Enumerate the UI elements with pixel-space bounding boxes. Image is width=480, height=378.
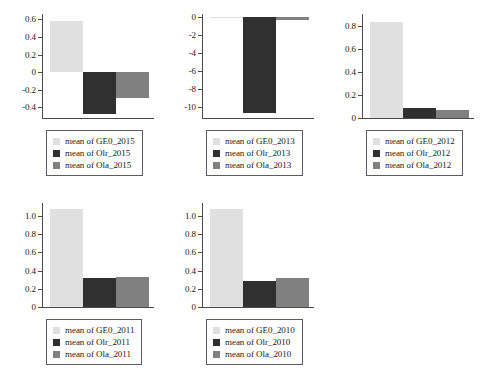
y-axis-tick bbox=[38, 216, 42, 217]
y-axis-tick-label: 0.4 bbox=[185, 266, 196, 275]
legend-swatch-icon bbox=[53, 327, 60, 334]
legend-item[interactable]: mean of GE0_2013 bbox=[213, 135, 295, 147]
y-axis-tick-label: -8 bbox=[189, 85, 196, 94]
y-axis-tick-label: 0.8 bbox=[25, 230, 36, 239]
y-axis-tick bbox=[358, 49, 362, 50]
plot-area: 1.00.80.60.40.20 bbox=[202, 203, 310, 307]
bar bbox=[276, 17, 309, 20]
y-axis-tick bbox=[198, 35, 202, 36]
legend-item[interactable]: mean of GE0_2015 bbox=[53, 135, 135, 147]
legend-item[interactable]: mean of Ola_2012 bbox=[373, 159, 455, 171]
bar-group bbox=[43, 203, 150, 307]
legend-item[interactable]: mean of Ola_2010 bbox=[213, 348, 295, 360]
chart-panel-3: 0.80.60.40.20mean of GE0_2012mean of Olr… bbox=[320, 0, 480, 189]
y-axis-tick-label: -2 bbox=[189, 31, 196, 40]
y-axis-tick-label: 0.6 bbox=[25, 15, 36, 24]
y-axis-tick-label: 0.2 bbox=[25, 284, 36, 293]
legend-item[interactable]: mean of Ola_2015 bbox=[53, 159, 135, 171]
legend-item[interactable]: mean of Olr_2015 bbox=[53, 147, 135, 159]
y-axis-tick bbox=[198, 234, 202, 235]
legend-swatch-icon bbox=[373, 138, 380, 145]
legend-item-label: mean of Olr_2011 bbox=[65, 337, 130, 347]
legend-item-label: mean of Ola_2012 bbox=[385, 160, 451, 170]
y-axis-tick-label: 0.6 bbox=[25, 248, 36, 257]
legend-swatch-icon bbox=[53, 339, 60, 346]
legend-item[interactable]: mean of Olr_2011 bbox=[53, 336, 134, 348]
y-axis-tick-label: -4 bbox=[189, 49, 196, 58]
legend-swatch-icon bbox=[213, 351, 220, 358]
y-axis-tick-label: -10 bbox=[184, 103, 196, 112]
chart-legend: mean of GE0_2012mean of Olr_2012mean of … bbox=[366, 130, 463, 176]
legend-swatch-icon bbox=[373, 150, 380, 157]
bar bbox=[370, 22, 403, 118]
y-axis-tick bbox=[38, 289, 42, 290]
x-axis-line bbox=[42, 118, 154, 119]
legend-swatch-icon bbox=[53, 138, 60, 145]
y-axis-tick-label: -0.2 bbox=[22, 85, 36, 94]
chart-panel-5: 1.00.80.60.40.20mean of GE0_2010mean of … bbox=[160, 189, 320, 378]
bar bbox=[83, 278, 116, 307]
y-axis-tick-label: 1.0 bbox=[185, 211, 196, 220]
plot-area: 1.00.80.60.40.20 bbox=[42, 203, 150, 307]
y-axis-tick-label: 0.8 bbox=[185, 230, 196, 239]
y-axis-tick bbox=[38, 107, 42, 108]
legend-item-label: mean of GE0_2011 bbox=[65, 325, 134, 335]
legend-item[interactable]: mean of GE0_2012 bbox=[373, 135, 455, 147]
bar bbox=[436, 110, 469, 118]
y-axis-tick bbox=[38, 55, 42, 56]
chart-panel-4: 1.00.80.60.40.20mean of GE0_2011mean of … bbox=[0, 189, 160, 378]
y-axis-tick bbox=[38, 72, 42, 73]
legend-item[interactable]: mean of GE0_2011 bbox=[53, 324, 134, 336]
legend-item[interactable]: mean of GE0_2010 bbox=[213, 324, 295, 336]
legend-item-label: mean of Ola_2011 bbox=[65, 349, 131, 359]
bar-group bbox=[203, 14, 310, 118]
chart-legend: mean of GE0_2010mean of Olr_2010mean of … bbox=[206, 319, 303, 365]
y-axis-tick bbox=[358, 95, 362, 96]
legend-item-label: mean of Ola_2010 bbox=[225, 349, 291, 359]
legend-item-label: mean of Olr_2012 bbox=[385, 148, 450, 158]
y-axis-tick-label: -6 bbox=[189, 67, 196, 76]
y-axis-tick-label: 0.6 bbox=[345, 44, 356, 53]
legend-item[interactable]: mean of Ola_2011 bbox=[53, 348, 134, 360]
chart-panel-grid: 0.60.40.20-0.2-0.4mean of GE0_2015mean o… bbox=[0, 0, 480, 378]
bar bbox=[243, 281, 276, 307]
y-axis-tick bbox=[38, 307, 42, 308]
bar bbox=[50, 209, 83, 307]
legend-item[interactable]: mean of Ola_2013 bbox=[213, 159, 295, 171]
legend-swatch-icon bbox=[53, 162, 60, 169]
y-axis-tick-label: 0.2 bbox=[185, 284, 196, 293]
y-axis-tick bbox=[198, 107, 202, 108]
y-axis-tick bbox=[198, 289, 202, 290]
legend-item[interactable]: mean of Olr_2012 bbox=[373, 147, 455, 159]
y-axis-tick bbox=[358, 26, 362, 27]
legend-swatch-icon bbox=[213, 150, 220, 157]
legend-item[interactable]: mean of Olr_2010 bbox=[213, 336, 295, 348]
y-axis-tick-label: 0.4 bbox=[25, 266, 36, 275]
bar bbox=[276, 278, 309, 307]
x-axis-line bbox=[202, 118, 314, 119]
y-axis-tick bbox=[38, 252, 42, 253]
legend-swatch-icon bbox=[213, 339, 220, 346]
x-axis-line bbox=[202, 307, 314, 308]
plot-area: 0-2-4-6-8-10 bbox=[202, 14, 310, 118]
legend-item[interactable]: mean of Olr_2013 bbox=[213, 147, 295, 159]
legend-swatch-icon bbox=[213, 327, 220, 334]
y-axis-tick-label: 0.6 bbox=[185, 248, 196, 257]
x-axis-line bbox=[42, 307, 154, 308]
legend-swatch-icon bbox=[213, 138, 220, 145]
chart-panel-2: 0-2-4-6-8-10mean of GE0_2013mean of Olr_… bbox=[160, 0, 320, 189]
bar bbox=[83, 72, 116, 114]
y-axis-tick-label: -0.4 bbox=[22, 103, 36, 112]
bar-group bbox=[203, 203, 310, 307]
y-axis-tick-label: 0 bbox=[352, 114, 356, 123]
y-axis-tick-label: 0.4 bbox=[345, 67, 356, 76]
bar-group bbox=[43, 14, 150, 118]
legend-swatch-icon bbox=[53, 150, 60, 157]
bar-group bbox=[363, 14, 470, 118]
y-axis-tick bbox=[198, 307, 202, 308]
y-axis-tick bbox=[198, 89, 202, 90]
chart-panel-1: 0.60.40.20-0.2-0.4mean of GE0_2015mean o… bbox=[0, 0, 160, 189]
y-axis-tick-label: 0 bbox=[32, 68, 36, 77]
legend-item-label: mean of Ola_2013 bbox=[225, 160, 291, 170]
legend-swatch-icon bbox=[373, 162, 380, 169]
